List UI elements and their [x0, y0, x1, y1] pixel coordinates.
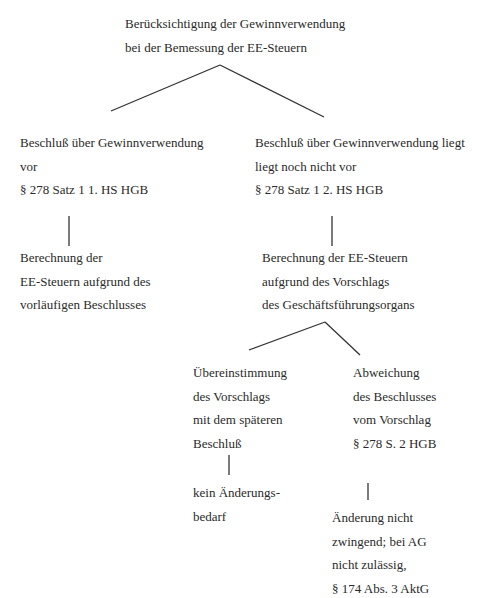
root-line-2: bei der Bemessung der EE-Steuern: [125, 36, 345, 60]
deviation-line-2: des Beschlusses: [353, 385, 436, 409]
edge-proposal-right: [325, 322, 360, 355]
agreement-line-2: des Vorschlags: [193, 385, 287, 409]
right-condition-line-1: Beschluß über Gewinnverwendung liegt: [255, 131, 465, 155]
change-line-3: nicht zulässig,: [332, 553, 429, 577]
left-result-line-3: vorläufigen Beschlusses: [20, 293, 151, 317]
agreement-node: Übereinstimmung des Vorschlags mit dem s…: [193, 361, 287, 455]
left-result-line-1: Berechnung der: [20, 246, 151, 270]
left-condition-line-3: § 278 Satz 1 1. HS HGB: [20, 178, 203, 202]
deviation-line-3: vom Vorschlag: [353, 408, 436, 432]
deviation-node: Abweichung des Beschlusses vom Vorschlag…: [353, 361, 436, 455]
right-result-line-3: des Geschäftsführungsorgans: [262, 293, 414, 317]
no-change-line-1: kein Änderungs-: [193, 481, 280, 505]
left-condition-node: Beschluß über Gewinnverwendung vor § 278…: [20, 131, 203, 202]
change-not-required-node: Änderung nicht zwingend; bei AG nicht zu…: [332, 506, 429, 598]
no-change-line-2: bedarf: [193, 505, 280, 529]
left-result-line-2: EE-Steuern aufgrund des: [20, 270, 151, 294]
agreement-line-4: Beschluß: [193, 432, 287, 456]
change-line-4: § 174 Abs. 3 AktG: [332, 577, 429, 598]
right-result-node: Berechnung der EE-Steuern aufgrund des V…: [262, 246, 414, 317]
right-condition-node: Beschluß über Gewinnverwendung liegt lie…: [255, 131, 465, 202]
edge-proposal-left: [249, 322, 325, 350]
edge-root-right: [220, 65, 324, 117]
right-result-line-1: Berechnung der EE-Steuern: [262, 246, 414, 270]
right-condition-line-3: § 278 Satz 1 2. HS HGB: [255, 178, 465, 202]
agreement-line-1: Übereinstimmung: [193, 361, 287, 385]
root-node: Berücksichtigung der Gewinnverwendung be…: [125, 12, 345, 59]
root-line-1: Berücksichtigung der Gewinnverwendung: [125, 12, 345, 36]
change-line-2: zwingend; bei AG: [332, 530, 429, 554]
no-change-node: kein Änderungs- bedarf: [193, 481, 280, 528]
right-result-line-2: aufgrund des Vorschlags: [262, 270, 414, 294]
left-result-node: Berechnung der EE-Steuern aufgrund des v…: [20, 246, 151, 317]
left-condition-line-2: vor: [20, 155, 203, 179]
right-condition-line-2: liegt noch nicht vor: [255, 155, 465, 179]
deviation-line-1: Abweichung: [353, 361, 436, 385]
change-line-1: Änderung nicht: [332, 506, 429, 530]
edge-root-left: [111, 65, 220, 111]
agreement-line-3: mit dem späteren: [193, 408, 287, 432]
left-condition-line-1: Beschluß über Gewinnverwendung: [20, 131, 203, 155]
deviation-line-4: § 278 S. 2 HGB: [353, 432, 436, 456]
